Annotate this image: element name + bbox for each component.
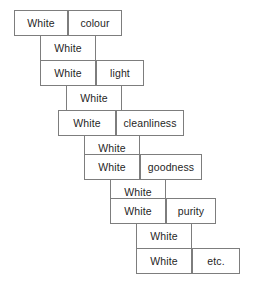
step-3-collocate-cell: cleanliness bbox=[116, 110, 184, 136]
step-5-collocate-cell: purity bbox=[166, 198, 216, 224]
step-1-collocate-cell: colour bbox=[68, 10, 122, 36]
step-2-collocate-cell: light bbox=[96, 60, 144, 86]
step-6-terminal-cell: etc. bbox=[192, 248, 240, 274]
connector-1-cell: White bbox=[40, 35, 96, 61]
step-4-node-cell: White bbox=[84, 154, 140, 180]
connector-5-cell: White bbox=[136, 223, 192, 249]
connector-2-cell: White bbox=[66, 85, 122, 111]
step-1-node-cell: White bbox=[14, 10, 68, 36]
step-4-collocate-cell: goodness bbox=[140, 154, 202, 180]
step-3-node-cell: White bbox=[58, 110, 116, 136]
step-6-node-cell: White bbox=[136, 248, 192, 274]
step-2-node-cell: White bbox=[40, 60, 96, 86]
cascade-diagram: White colour White White light White Whi… bbox=[0, 0, 255, 292]
step-5-node-cell: White bbox=[110, 198, 166, 224]
